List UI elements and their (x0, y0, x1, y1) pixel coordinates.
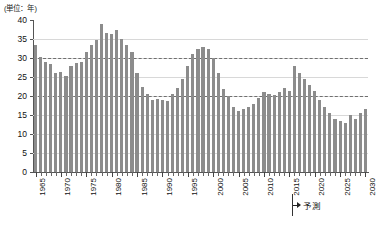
x-tick-mark-1979 (107, 172, 108, 176)
x-tick-mark-2006 (244, 172, 245, 176)
bar-1999 (207, 49, 210, 173)
x-tick-mark-1967 (46, 172, 47, 176)
bar-1990 (161, 100, 164, 172)
x-tick-mark-1998 (203, 172, 204, 176)
bar-1980 (110, 34, 113, 172)
bar-2018 (303, 79, 306, 172)
bar-2002 (222, 89, 225, 172)
x-tick-mark-1987 (147, 172, 148, 176)
x-tick-mark-1994 (183, 172, 184, 176)
x-tick-mark-2023 (330, 172, 331, 176)
x-tick-mark-1969 (56, 172, 57, 176)
bar-1989 (156, 99, 159, 172)
bar-1983 (125, 45, 128, 172)
bar-1966 (39, 57, 42, 172)
x-tick-mark-2028 (355, 172, 356, 176)
x-tick-mark-1973 (76, 172, 77, 176)
bar-1972 (69, 66, 72, 172)
bar-1967 (44, 62, 47, 172)
x-tick-mark-1983 (127, 172, 128, 176)
y-tick-label-40: 40 (18, 16, 27, 25)
x-tick-label-2000: 2000 (217, 178, 225, 196)
x-tick-mark-2021 (320, 172, 321, 176)
x-tick-label-2010: 2010 (267, 178, 275, 196)
x-tick-mark-1999 (208, 172, 209, 176)
x-tick-mark-2025 (340, 172, 341, 177)
arrow-right-icon (293, 205, 300, 206)
bar-2009 (257, 98, 260, 172)
x-tick-label-2025: 2025 (344, 178, 352, 196)
x-tick-mark-1972 (71, 172, 72, 176)
y-tick-label-15: 15 (18, 111, 27, 120)
forecast-arrow: 予測 (293, 199, 321, 211)
bar-1996 (191, 54, 194, 172)
bar-1988 (151, 100, 154, 172)
x-tick-mark-1966 (41, 172, 42, 176)
x-tick-mark-2012 (274, 172, 275, 176)
x-tick-mark-2013 (279, 172, 280, 176)
x-tick-label-1995: 1995 (191, 178, 199, 196)
bar-2003 (227, 96, 230, 172)
bar-1979 (105, 33, 108, 172)
x-tick-mark-2002 (223, 172, 224, 176)
x-tick-mark-1991 (168, 172, 169, 176)
x-tick-mark-1993 (178, 172, 179, 176)
x-tick-mark-2030 (365, 172, 366, 177)
x-tick-mark-1984 (132, 172, 133, 176)
x-tick-mark-1997 (198, 172, 199, 176)
x-tick-mark-1978 (102, 172, 103, 176)
x-tick-mark-1986 (142, 172, 143, 176)
bar-1984 (130, 52, 133, 172)
x-tick-mark-1982 (122, 172, 123, 176)
bar-1975 (85, 52, 88, 172)
bar-2008 (252, 104, 255, 172)
x-tick-mark-1992 (173, 172, 174, 176)
x-tick-mark-1970 (61, 172, 62, 177)
bar-1978 (100, 24, 103, 172)
bar-2007 (247, 107, 250, 172)
x-tick-mark-1980 (112, 172, 113, 177)
x-tick-mark-1976 (91, 172, 92, 176)
bar-2021 (318, 100, 321, 172)
bar-1968 (49, 64, 52, 172)
x-tick-label-1980: 1980 (115, 178, 123, 196)
x-tick-label-1970: 1970 (64, 178, 72, 196)
x-tick-mark-2022 (325, 172, 326, 176)
x-tick-mark-2008 (254, 172, 255, 176)
bar-1998 (201, 47, 204, 172)
bar-2028 (354, 119, 357, 172)
bar-2005 (237, 111, 240, 172)
plot-area: 0510152025303540 (33, 20, 368, 172)
bar-2006 (242, 109, 245, 172)
bar-2004 (232, 107, 235, 172)
x-tick-mark-1981 (117, 172, 118, 176)
bar-1993 (176, 88, 179, 172)
x-tick-mark-2026 (345, 172, 346, 176)
x-tick-label-1990: 1990 (166, 178, 174, 196)
bar-2014 (283, 88, 286, 172)
x-tick-mark-2001 (218, 172, 219, 176)
x-tick-mark-2014 (284, 172, 285, 176)
bar-2030 (364, 109, 367, 172)
x-tick-mark-1965 (36, 172, 37, 177)
x-tick-mark-2024 (335, 172, 336, 176)
x-tick-mark-2018 (305, 172, 306, 176)
bar-2029 (359, 113, 362, 172)
bar-1991 (166, 101, 169, 172)
x-tick-mark-1977 (96, 172, 97, 176)
bar-series (33, 20, 368, 172)
x-tick-label-1975: 1975 (90, 178, 98, 196)
x-tick-mark-2016 (294, 172, 295, 176)
x-tick-mark-2004 (233, 172, 234, 176)
x-tick-mark-1985 (137, 172, 138, 177)
x-tick-mark-1971 (66, 172, 67, 176)
x-tick-mark-1988 (152, 172, 153, 176)
x-tick-mark-2029 (360, 172, 361, 176)
bar-2027 (349, 115, 352, 172)
bar-1974 (80, 62, 83, 172)
x-tick-mark-2010 (264, 172, 265, 177)
bar-1969 (54, 73, 57, 172)
bar-2015 (288, 91, 291, 172)
bar-1985 (135, 73, 138, 172)
